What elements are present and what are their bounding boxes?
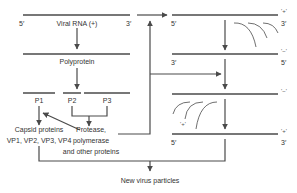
p3-label: P3 bbox=[103, 97, 112, 105]
nonstructural-label-line3: and other proteins bbox=[63, 148, 119, 156]
strand4-left-end: 5′ bbox=[171, 139, 176, 147]
polyprotein-label: Polyprotein bbox=[59, 58, 94, 66]
diagram-canvas bbox=[0, 0, 297, 193]
strand4-sense-label: '+' bbox=[281, 127, 287, 135]
strand2-right-end: 5′ bbox=[281, 59, 286, 67]
strand3-sense-label: '−' bbox=[281, 87, 287, 95]
nonstructural-label-line2: polymerase bbox=[73, 137, 109, 145]
capsid-label-line1: Capsid proteins bbox=[15, 126, 64, 134]
connector-polymerase bbox=[118, 21, 150, 134]
capsid-label-line2: VP1, VP2, VP3, VP4 bbox=[7, 137, 72, 145]
new-virus-particles-label: New virus particles bbox=[121, 177, 180, 185]
nonstructural-label-line1: Protease, bbox=[76, 126, 106, 134]
viral-rna-label: Viral RNA (+) bbox=[57, 20, 98, 28]
strand1-right-end: 3′ bbox=[281, 20, 286, 28]
strand4-right-end: 3′ bbox=[281, 139, 286, 147]
nascent-minus-curves bbox=[234, 23, 278, 47]
strand2-left-end: 3′ bbox=[171, 59, 176, 67]
p2-p3-bracket bbox=[72, 106, 107, 116]
strand1-sense-label: '+' bbox=[281, 7, 287, 15]
strand2-sense-label: '−' bbox=[281, 47, 287, 55]
viral-rna-3prime-label: 3′ bbox=[126, 20, 131, 28]
nascent-plus-label: '+' bbox=[180, 120, 186, 128]
strand1-left-end: 5′ bbox=[171, 20, 176, 28]
viral-rna-5prime-label: 5′ bbox=[19, 20, 24, 28]
p1-label: P1 bbox=[35, 97, 44, 105]
p2-label: P2 bbox=[68, 97, 77, 105]
